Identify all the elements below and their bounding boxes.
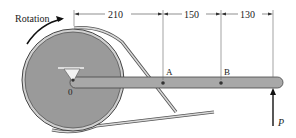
force-label: P <box>277 117 284 128</box>
pivot-pin-icon <box>71 78 74 81</box>
lever-pulley-diagram: 0 A B 210 150 130 Rotation P <box>0 0 296 138</box>
pivot-label: 0 <box>68 87 73 97</box>
dimension-150: 150 <box>184 9 199 20</box>
dimension-130: 130 <box>240 9 255 20</box>
rotation-label: Rotation <box>15 13 49 24</box>
point-b-label: B <box>224 67 230 77</box>
dimension-210: 210 <box>108 9 123 20</box>
force-arrow-icon <box>270 88 276 126</box>
lever-arm <box>70 77 283 88</box>
point-a-label: A <box>166 67 173 77</box>
pin-b-icon <box>219 81 223 85</box>
pin-a-icon <box>161 81 165 85</box>
